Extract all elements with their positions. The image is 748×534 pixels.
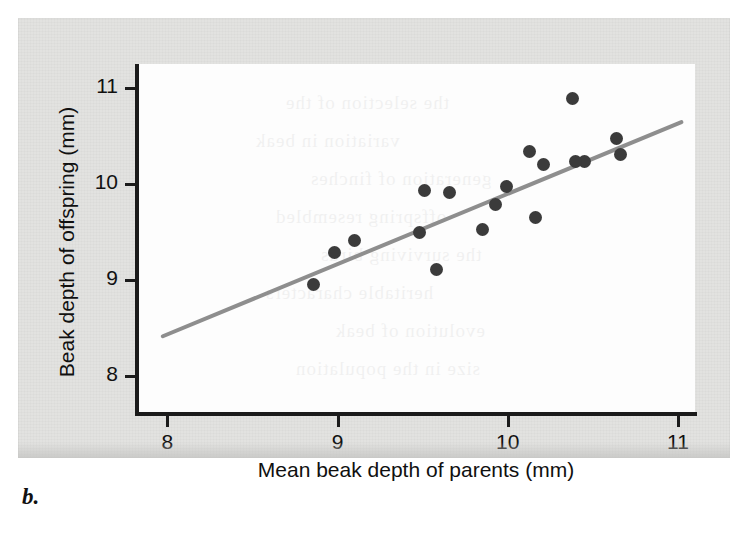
- y-tick-10: [125, 183, 135, 186]
- x-tick-10: [507, 416, 510, 427]
- x-tick-label-11: 11: [658, 430, 698, 454]
- y-tick-8: [125, 375, 135, 378]
- x-tick-label-8: 8: [147, 430, 187, 454]
- y-axis-title: Beak depth of offspring (mm): [55, 77, 79, 407]
- y-tick-9: [125, 279, 135, 282]
- x-tick-9: [337, 416, 340, 427]
- scanned-page-background: the selection of thevariation in beakgen…: [18, 18, 730, 458]
- x-axis-tick-labels: 891011: [18, 18, 730, 458]
- x-tick-label-10: 10: [488, 430, 528, 454]
- x-tick-label-9: 9: [318, 430, 358, 454]
- x-tick-11: [677, 416, 680, 427]
- y-tick-11: [125, 87, 135, 90]
- figure-caption: b.: [22, 484, 39, 510]
- x-axis-title: Mean beak depth of parents (mm): [135, 458, 697, 482]
- x-tick-8: [166, 416, 169, 427]
- figure-page: the selection of thevariation in beakgen…: [0, 0, 748, 534]
